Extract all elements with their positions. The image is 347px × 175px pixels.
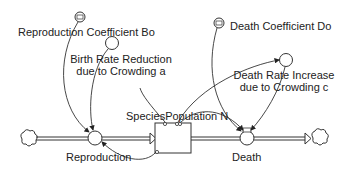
death-coef-constant-icon[interactable] (214, 18, 224, 28)
birth-reduction-label: Birth Rate Reduction due to Crowding a (68, 53, 174, 77)
death-increase-aux-icon[interactable] (280, 54, 293, 67)
death-coef-label: Death Coefficient Do (230, 20, 331, 32)
reproduction-valve[interactable] (88, 131, 102, 145)
birth-reduction-aux-icon[interactable] (106, 37, 119, 50)
sink-cloud-icon (312, 129, 328, 145)
death-valve[interactable] (240, 131, 254, 145)
stock-species-population[interactable] (155, 123, 191, 153)
death-increase-label: Death Rate Increase due to Crowding c (232, 69, 336, 93)
repro-coef-constant-icon[interactable] (75, 12, 85, 22)
stock-label: SpeciesPopulation N (126, 110, 228, 122)
repro-coef-label: Reproduction Coefficient Bo (18, 26, 155, 38)
reproduction-label: Reproduction (66, 151, 131, 163)
death-label: Death (232, 151, 261, 163)
source-cloud-icon (21, 130, 37, 146)
